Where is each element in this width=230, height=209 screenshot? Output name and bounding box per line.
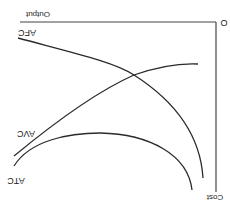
avc-curve xyxy=(14,64,198,156)
cost-curves-diagram: O Output Cost AFC AVC ATC xyxy=(0,0,230,209)
cost-axis-label: Cost xyxy=(206,193,223,202)
origin-label: O xyxy=(220,18,227,28)
avc-label: AVC xyxy=(17,129,35,139)
afc-label: AFC xyxy=(17,28,36,38)
atc-label: ATC xyxy=(7,176,25,186)
atc-curve xyxy=(14,133,192,190)
output-axis-label: Output xyxy=(25,10,50,19)
